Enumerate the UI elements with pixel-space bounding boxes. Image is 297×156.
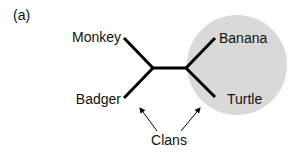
panel-label: (a) xyxy=(13,7,30,23)
arrow-right-icon xyxy=(181,108,200,131)
leaf-label-banana: Banana xyxy=(219,30,267,46)
arrow-left-icon xyxy=(140,108,157,131)
figure-canvas: (a) Monkey Badger Banana Turtle Clans xyxy=(0,0,297,156)
leaf-label-turtle: Turtle xyxy=(227,91,262,107)
edge-badger xyxy=(124,68,153,98)
leaf-label-monkey: Monkey xyxy=(72,29,121,45)
leaf-label-badger: Badger xyxy=(76,91,121,107)
edge-monkey xyxy=(124,38,153,68)
tree-diagram: (a) Monkey Badger Banana Turtle Clans xyxy=(0,0,297,156)
clans-annotation: Clans xyxy=(151,132,187,148)
